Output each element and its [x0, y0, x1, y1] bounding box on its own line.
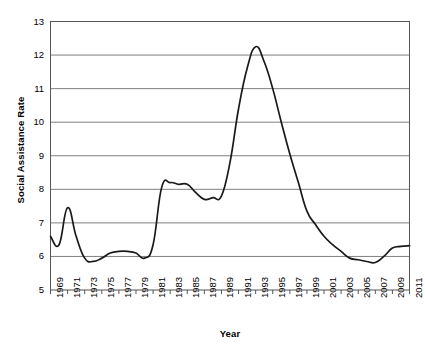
plot-area [0, 0, 425, 348]
gridline-group [51, 55, 410, 256]
x-axis-title: Year [50, 328, 410, 340]
tick-mark-group [51, 290, 410, 294]
data-series-line [51, 46, 410, 262]
chart-figure: Social Assistance Rate 5678910111213 196… [0, 0, 425, 348]
